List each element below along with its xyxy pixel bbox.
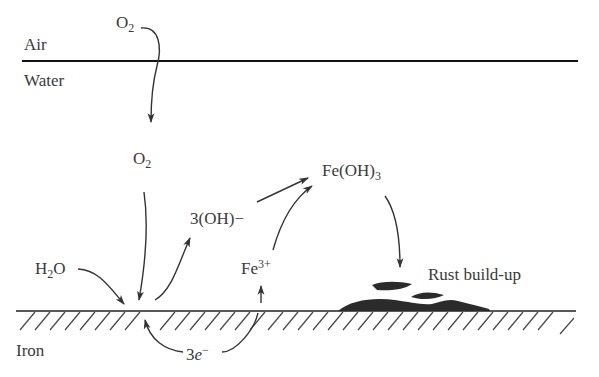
arrow-h2o-to-cathode [78, 269, 124, 304]
label-water-molecule: H2O [35, 260, 66, 280]
iron-hatching [20, 312, 574, 334]
arrow-cathode-to-hydroxide [155, 238, 190, 300]
label-water: Water [24, 72, 64, 89]
arrow-ironhydroxide-to-rust [385, 196, 400, 267]
label-o2-water: O2 [133, 150, 151, 170]
label-iron-hydroxide: Fe(OH)3 [322, 162, 381, 182]
label-iron: Iron [16, 342, 44, 359]
corrosion-diagram: O2 Air Water O2 3(OH)− Fe(OH)3 Fe3+ H2O … [0, 0, 599, 377]
label-iron-ion: Fe3+ [241, 258, 271, 277]
arrow-ironion-to-ironhydroxide [273, 186, 312, 250]
rust-deposits [338, 282, 490, 311]
arrow-o2-to-cathode [139, 192, 146, 300]
label-air: Air [24, 36, 47, 53]
arrow-o2-air-to-water [141, 28, 159, 122]
arrow-hydroxide-to-ironhydroxide [257, 178, 308, 202]
diagram-graphics [0, 0, 599, 377]
label-electrons: 3e− [186, 344, 209, 363]
label-o2-air: O2 [116, 14, 134, 34]
label-rust-buildup: Rust build-up [428, 266, 521, 283]
label-hydroxide: 3(OH)− [190, 210, 244, 227]
